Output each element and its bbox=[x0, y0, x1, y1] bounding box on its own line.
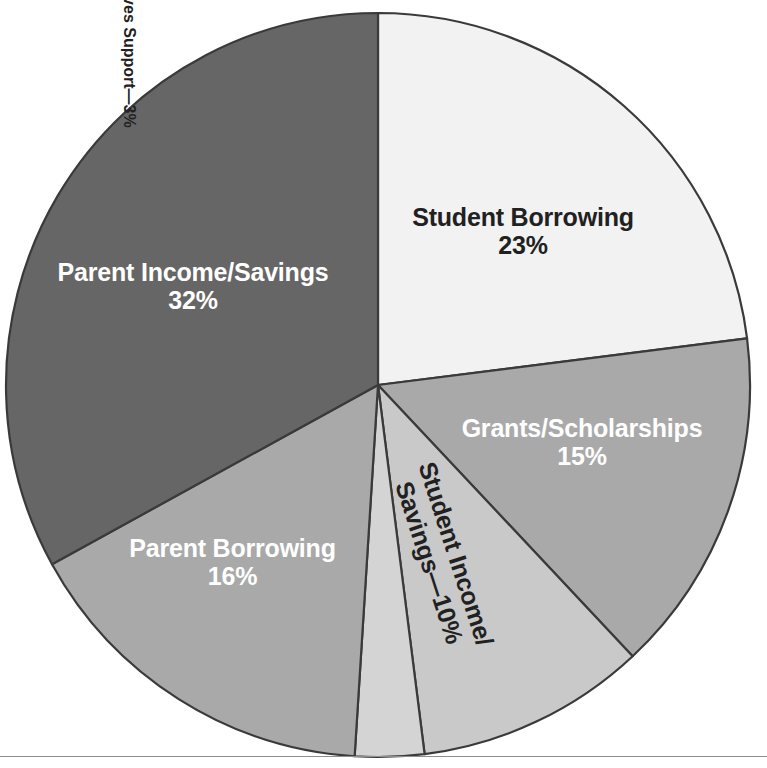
pie-chart-svg bbox=[0, 0, 767, 768]
bottom-divider-rule bbox=[0, 756, 767, 757]
pie-slice-student-borrowing[interactable] bbox=[378, 13, 747, 385]
pie-chart-figure: Student Borrowing 23% Parent Income/Savi… bbox=[0, 0, 767, 768]
